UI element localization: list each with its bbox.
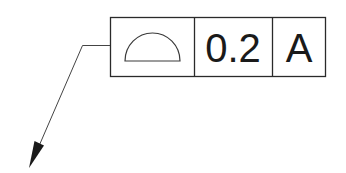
profile-of-a-surface-icon xyxy=(125,33,180,61)
feature-control-frame-diagram: 0.2 A xyxy=(0,0,346,173)
datum-reference: A xyxy=(286,26,313,70)
leader-arrowhead-icon xyxy=(29,141,44,168)
tolerance-value: 0.2 xyxy=(205,26,261,70)
leader-line xyxy=(39,46,110,147)
